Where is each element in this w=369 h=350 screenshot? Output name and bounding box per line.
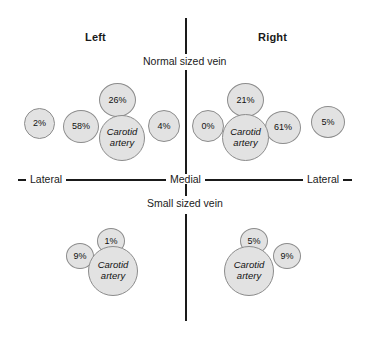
midline-upper — [185, 70, 187, 175]
artery-label-line1: Carotid — [234, 259, 265, 270]
axis-label-lateral-left: Lateral — [26, 174, 66, 185]
artery-label: Carotid artery — [234, 260, 265, 282]
carotid-vein-position-diagram: Left Right Normal sized vein 2% 58% 26% … — [0, 0, 369, 350]
node-normal-right-medial: 0% — [192, 110, 224, 142]
node-value: 9% — [280, 251, 293, 261]
node-normal-right-far-lateral: 5% — [311, 106, 345, 138]
artery-label: Carotid artery — [98, 260, 129, 282]
artery-label-line2: artery — [110, 137, 134, 148]
node-value: 0% — [201, 121, 214, 131]
node-value: 58% — [72, 121, 90, 131]
node-value: 2% — [33, 118, 46, 128]
artery-label-line2: artery — [233, 137, 257, 148]
artery-label-line2: artery — [101, 270, 125, 281]
node-value: 21% — [236, 95, 254, 105]
axis-label-medial: Medial — [166, 174, 205, 185]
header-left: Left — [85, 32, 106, 43]
node-small-right-lateral: 9% — [273, 243, 301, 269]
node-value: 9% — [73, 251, 86, 261]
node-normal-right-anterior: 21% — [227, 83, 264, 117]
artery-label-line1: Carotid — [230, 126, 261, 137]
small-vein-caption: Small sized vein — [147, 198, 223, 209]
axis-label-lateral-right: Lateral — [303, 174, 343, 185]
artery-label-line1: Carotid — [107, 126, 138, 137]
midline-bottom — [185, 214, 187, 321]
node-normal-left-far-lateral: 2% — [24, 108, 55, 139]
artery-normal-right: Carotid artery — [222, 114, 269, 161]
midline-top — [185, 18, 187, 54]
node-normal-right-lateral: 61% — [265, 111, 301, 144]
artery-label-line1: Carotid — [98, 259, 129, 270]
node-value: 1% — [104, 236, 117, 246]
artery-small-left: Carotid artery — [88, 246, 138, 296]
header-right: Right — [258, 32, 287, 43]
artery-label-line2: artery — [237, 270, 261, 281]
node-value: 5% — [321, 117, 334, 127]
artery-normal-left: Carotid artery — [99, 115, 145, 161]
artery-label: Carotid artery — [230, 127, 261, 149]
node-value: 26% — [108, 95, 126, 105]
node-normal-left-anterior: 26% — [99, 83, 136, 117]
artery-small-right: Carotid artery — [224, 246, 274, 296]
midline-lower-stub — [185, 184, 187, 196]
node-value: 4% — [157, 121, 170, 131]
node-value: 5% — [247, 236, 260, 246]
node-normal-left-lateral: 58% — [63, 110, 99, 143]
node-value: 61% — [274, 122, 292, 132]
normal-vein-caption: Normal sized vein — [143, 56, 226, 67]
artery-label: Carotid artery — [107, 127, 138, 149]
node-normal-left-medial: 4% — [148, 110, 180, 142]
